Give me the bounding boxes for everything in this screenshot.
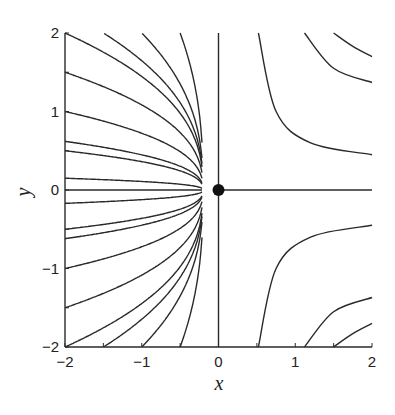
y-tick-label: −1	[42, 260, 59, 277]
phase-portrait-chart: −2−1012−2−1012 x y	[0, 0, 395, 415]
y-tick-label: 2	[51, 24, 59, 41]
fixed-point-marker	[213, 184, 225, 196]
x-tick-label: −1	[133, 353, 150, 370]
hyperbolic-trajectory	[258, 33, 372, 155]
fan-trajectory	[65, 192, 202, 203]
fan-trajectory	[180, 237, 202, 347]
fan-trajectory	[142, 33, 202, 158]
fan-trajectory	[65, 178, 202, 188]
fan-trajectory	[180, 33, 202, 143]
hyperbolic-trajectory	[334, 323, 372, 347]
hyperbolic-trajectory	[258, 225, 372, 347]
hyperbolic-trajectory	[305, 33, 373, 83]
fan-trajectory	[142, 222, 202, 347]
x-tick-label: −2	[56, 353, 73, 370]
hyperbolic-trajectory	[305, 298, 373, 348]
x-tick-label: 1	[291, 353, 299, 370]
fan-trajectory	[65, 141, 202, 183]
x-tick-label: 2	[368, 353, 376, 370]
x-axis-label: x	[214, 372, 224, 394]
y-tick-label: 1	[51, 103, 59, 120]
x-tick-label: 0	[214, 353, 222, 370]
fan-trajectory	[65, 197, 202, 239]
y-tick-label: −2	[42, 338, 59, 355]
y-tick-label: 0	[51, 181, 59, 198]
hyperbolic-trajectory	[334, 33, 372, 57]
y-axis-label: y	[12, 187, 35, 198]
